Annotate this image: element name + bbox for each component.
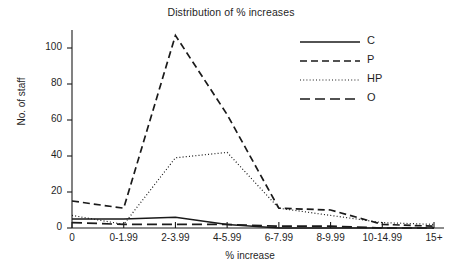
series-line-o: [72, 223, 434, 228]
series-line-c: [72, 217, 434, 228]
axis-lines: [72, 30, 444, 228]
series-line-p: [72, 35, 434, 226]
axis-ticks: [67, 48, 434, 228]
data-series-layer: [72, 35, 434, 228]
chart-figure: Distribution of % increases No. of staff…: [0, 0, 462, 271]
legend-sample-lines: [300, 42, 360, 99]
plot-area: [0, 0, 462, 271]
series-line-hp: [72, 152, 434, 224]
